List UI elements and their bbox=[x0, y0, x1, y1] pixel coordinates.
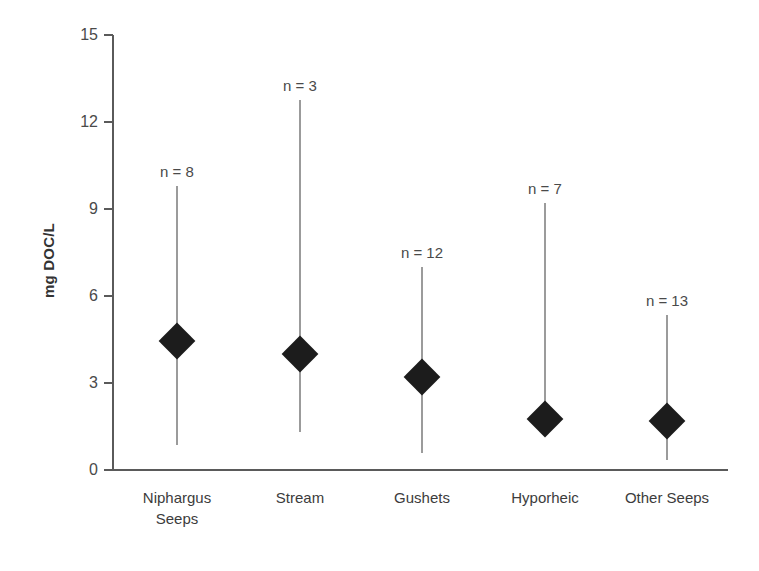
error-bar-1 bbox=[176, 186, 178, 446]
error-bar-2 bbox=[299, 100, 301, 432]
y-tick-label-12: 12 bbox=[68, 114, 98, 130]
x-axis-label-other-seeps: Other Seeps bbox=[587, 487, 747, 508]
y-tick-9 bbox=[104, 208, 113, 210]
chart-canvas: mg DOC/L 0 3 6 9 12 15 n = 8n = 3n = 12n… bbox=[0, 0, 759, 571]
x-axis-line bbox=[112, 469, 728, 471]
y-tick-label-15: 15 bbox=[68, 27, 98, 43]
sample-size-annotation-2: n = 3 bbox=[255, 78, 345, 93]
data-point-marker-4 bbox=[527, 401, 564, 438]
y-tick-15 bbox=[104, 34, 113, 36]
x-axis-label-line: Other Seeps bbox=[587, 487, 747, 508]
y-tick-label-0: 0 bbox=[68, 462, 98, 478]
y-tick-0 bbox=[104, 469, 113, 471]
y-axis-line bbox=[112, 35, 114, 471]
data-point-marker-1 bbox=[159, 323, 196, 360]
y-tick-6 bbox=[104, 295, 113, 297]
sample-size-annotation-4: n = 7 bbox=[500, 181, 590, 196]
y-axis-title: mg DOC/L bbox=[40, 201, 57, 321]
x-axis-label-line: Seeps bbox=[97, 508, 257, 529]
error-bar-4 bbox=[544, 203, 546, 419]
sample-size-annotation-3: n = 12 bbox=[377, 245, 467, 260]
y-tick-label-3: 3 bbox=[68, 375, 98, 391]
data-point-marker-3 bbox=[404, 359, 441, 396]
y-tick-label-9: 9 bbox=[68, 201, 98, 217]
data-point-marker-2 bbox=[282, 336, 319, 373]
data-point-marker-5 bbox=[649, 402, 686, 439]
sample-size-annotation-1: n = 8 bbox=[132, 164, 222, 179]
sample-size-annotation-5: n = 13 bbox=[622, 293, 712, 308]
y-tick-3 bbox=[104, 382, 113, 384]
y-tick-12 bbox=[104, 121, 113, 123]
y-tick-label-6: 6 bbox=[68, 288, 98, 304]
